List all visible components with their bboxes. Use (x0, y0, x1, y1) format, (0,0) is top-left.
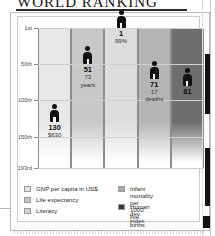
legend-swatch (118, 186, 125, 192)
figure-body-icon (50, 110, 59, 122)
data-point-figure-icon (148, 61, 161, 79)
y-axis-tick (34, 100, 38, 101)
figure-body-icon (150, 67, 159, 79)
edge-mark-lower (205, 148, 210, 206)
bottom-hatch-rule (14, 231, 204, 234)
legend-swatch (24, 208, 31, 214)
data-point-figure-icon (181, 68, 194, 86)
data-point-detail-label: $630 (32, 132, 78, 139)
chart-legend: GNP per capita in US$Life expectancyLite… (24, 184, 196, 218)
figure-head-icon (85, 46, 90, 51)
data-point-detail-label: 99% (98, 38, 144, 45)
y-axis-tick (34, 168, 38, 169)
column-fade (172, 122, 203, 168)
y-axis-tick-label: 193rd (18, 165, 32, 171)
y-axis-tick-label: 150th (18, 134, 32, 140)
y-axis-tick (34, 28, 38, 29)
data-point-figure-icon (115, 10, 128, 28)
figure-head-icon (52, 104, 57, 109)
legend-swatch (24, 197, 31, 203)
figure-body-icon (117, 16, 126, 28)
legend-swatch (24, 186, 31, 192)
grid-line (38, 100, 204, 101)
data-point-rank-label: 1 (101, 29, 141, 38)
figure-head-icon (119, 10, 124, 15)
data-point-rank-label: 51 (68, 65, 108, 74)
y-axis-tick-label: 50th (21, 61, 32, 67)
y-axis-tick (34, 64, 38, 65)
column-fade (139, 122, 170, 168)
y-axis-labels: 1st50th100th150th193rd (0, 28, 36, 170)
data-point-figure-icon (48, 104, 61, 122)
figure-head-icon (152, 61, 157, 66)
data-point-figure-icon (81, 46, 94, 64)
legend-swatch (118, 204, 125, 210)
legend-label: Human dev. index (130, 203, 150, 225)
plot-area: 130$6305173 years199%7117 deaths81 (38, 28, 204, 168)
left-edge-stub (0, 208, 10, 209)
grid-line (38, 64, 204, 65)
column-fade (72, 122, 103, 168)
figure-body-icon (83, 52, 92, 64)
grid-line (38, 168, 204, 169)
title-divider (16, 9, 187, 11)
chart-column (38, 28, 71, 168)
y-axis-tick-label: 100th (18, 97, 32, 103)
data-point-rank-label: 130 (35, 123, 75, 132)
y-axis-tick-label: 1st (25, 25, 32, 31)
edge-mark-corner (203, 216, 210, 228)
figure-body-icon (183, 74, 192, 86)
figure-head-icon (185, 68, 190, 73)
legend-label: Life expectancy (36, 196, 78, 203)
legend-label: GNP per capita in US$ (36, 185, 98, 192)
data-point-detail-label: 73 years (65, 74, 111, 89)
page-edge-rule-outer (210, 0, 211, 236)
legend-label: Literacy (36, 207, 57, 214)
column-fade (105, 122, 136, 168)
edge-mark-upper (205, 54, 210, 114)
page-edge-rule-inner (202, 0, 203, 236)
